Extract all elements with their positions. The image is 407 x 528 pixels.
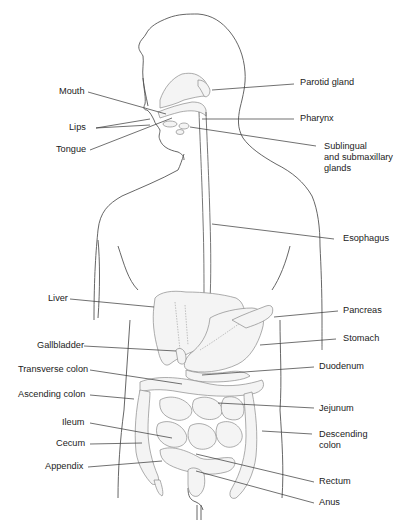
digestive-system-diagram: Mouth Lips Tongue Liver Gallbladder Tran…: [0, 0, 407, 528]
label-liver: Liver: [48, 293, 68, 304]
leader-pancreas: [274, 311, 338, 317]
leader-stomach: [260, 339, 336, 345]
label-tongue: Tongue: [56, 144, 86, 155]
leader-mouth: [88, 92, 166, 114]
leader-anus: [196, 471, 314, 503]
label-jejunum: Jejunum: [319, 403, 354, 414]
leader-cecum: [90, 443, 142, 444]
label-gallbladder: Gallbladder: [37, 340, 84, 351]
label-appendix: Appendix: [45, 461, 83, 472]
label-ileum: Ileum: [62, 417, 84, 428]
label-descending-2: colon: [319, 440, 341, 451]
leader-transverse-colon: [90, 370, 182, 384]
label-parotid-gland: Parotid gland: [300, 77, 354, 88]
label-anus: Anus: [319, 497, 340, 508]
label-transverse-colon: Transverse colon: [18, 364, 88, 375]
leader-parotid: [212, 84, 294, 90]
leader-sublingual: [190, 127, 316, 146]
label-rectum: Rectum: [319, 476, 351, 487]
label-sublingual-1: Sublingual: [324, 141, 367, 152]
label-mouth: Mouth: [59, 86, 85, 97]
label-pancreas: Pancreas: [343, 305, 382, 316]
label-esophagus: Esophagus: [343, 233, 389, 244]
leader-lips: [96, 119, 150, 128]
leader-ascending-colon: [90, 395, 134, 399]
label-duodenum: Duodenum: [319, 361, 364, 372]
label-cecum: Cecum: [56, 438, 85, 449]
leader-liver: [70, 299, 154, 307]
label-descending-1: Descending: [319, 429, 368, 440]
body-outline-icon: [139, 14, 322, 320]
label-sublingual-3: glands: [324, 163, 351, 174]
leader-esophagus: [212, 224, 334, 239]
label-pharynx: Pharynx: [300, 113, 334, 124]
label-stomach: Stomach: [343, 333, 379, 344]
label-ascending-colon: Ascending colon: [18, 389, 85, 400]
leader-descending: [262, 431, 312, 434]
label-lips: Lips: [69, 122, 86, 133]
label-sublingual-2: and submaxillary: [324, 152, 393, 163]
